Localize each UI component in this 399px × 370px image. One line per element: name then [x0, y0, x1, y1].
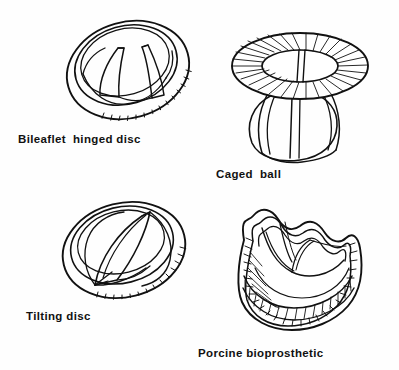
caption-porcine-bioprosthetic: Porcine bioprosthetic: [198, 347, 324, 359]
caption-bileaflet-hinged-disc: Bileaflet hinged disc: [18, 133, 141, 145]
bileaflet-valve-drawing: [55, 7, 201, 133]
caption-caged-ball: Caged ball: [216, 168, 281, 180]
caged-ball-valve-drawing: [232, 33, 368, 163]
figure-root: Bileaflet hinged disc Caged ball Tilting…: [0, 0, 399, 370]
tilting-disc-valve-drawing: [52, 189, 195, 310]
caption-tilting-disc: Tilting disc: [26, 310, 91, 322]
porcine-bioprosthetic-drawing: [238, 210, 361, 330]
